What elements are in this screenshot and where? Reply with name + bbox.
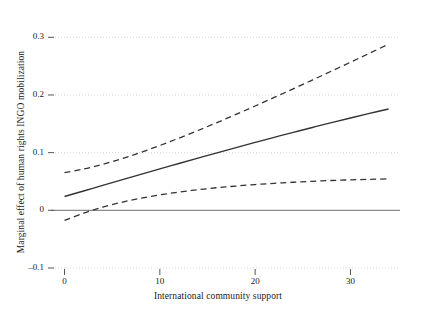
series-path: [65, 179, 389, 221]
y-tick-label-0: –0.1: [10, 262, 44, 272]
x-tick-marks: [65, 269, 351, 275]
y-tick-label-4: 0.3: [10, 31, 44, 41]
x-tick-label-2: 20: [240, 276, 270, 286]
y-tick-label-2: 0.1: [10, 147, 44, 157]
plot-area: [0, 0, 436, 314]
x-axis-title: International community support: [0, 291, 436, 301]
x-tick-label-3: 30: [335, 276, 365, 286]
series-path: [65, 44, 389, 172]
x-tick-label-1: 10: [145, 276, 175, 286]
y-tick-label-3: 0.2: [10, 89, 44, 99]
upper-confidence-line: [65, 44, 389, 172]
y-tick-label-1: 0: [10, 204, 44, 214]
x-tick-label-0: 0: [50, 276, 80, 286]
y-tick-marks: [48, 37, 54, 268]
lower-confidence-line: [65, 179, 389, 221]
gridlines-group: [55, 37, 400, 268]
chart-figure: Marginal effect of human rights INGO mob…: [0, 0, 436, 314]
